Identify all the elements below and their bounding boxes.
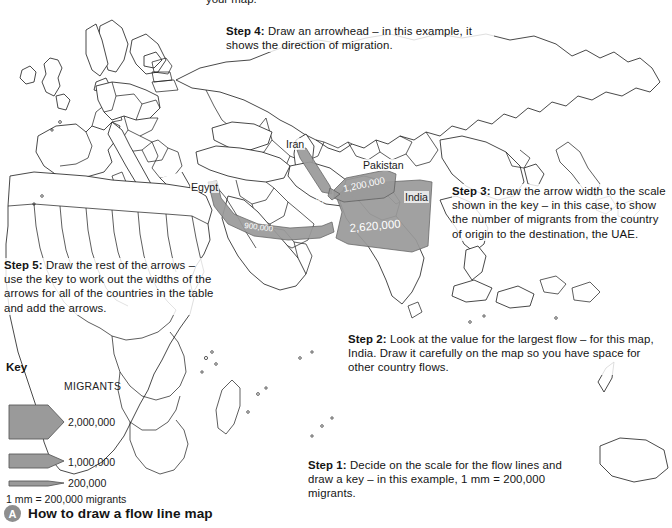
map-label-iran: Iran <box>285 138 305 150</box>
step-5-label: Step 5: <box>4 259 43 271</box>
map-label-india: India <box>404 191 429 203</box>
step-2-label: Step 2: <box>348 333 387 345</box>
figure-caption: A How to draw a flow line map <box>4 505 213 522</box>
key-column-header: MIGRANTS <box>64 381 121 392</box>
key-value-1000000: 1,000,000 <box>68 456 115 468</box>
callout-step-5: Step 5: Draw the rest of the arrows – us… <box>4 258 216 315</box>
key-swatch-200000 <box>8 477 66 489</box>
truncated-top-label: your map. <box>206 0 257 5</box>
step-2-body: Look at the value for the largest flow –… <box>348 333 654 373</box>
figure-canvas: 2,620,000 1,200,000 400,000 900,000 Egyp… <box>0 0 672 528</box>
figure-badge-a: A <box>4 505 21 522</box>
key-title: Key <box>6 360 156 373</box>
callout-step-3: Step 3: Draw the arrow width to the scal… <box>452 184 670 241</box>
callout-step-1: Step 1: Decide on the scale for the flow… <box>308 458 568 501</box>
step-1-label: Step 1: <box>308 459 347 471</box>
step-4-label: Step 4: <box>226 25 265 37</box>
callout-step-4: Step 4: Draw an arrowhead – in this exam… <box>226 24 494 52</box>
key-swatch-2000000 <box>8 401 66 443</box>
truncated-top-text: your map. <box>206 0 406 6</box>
key-value-200000: 200,000 <box>68 477 106 489</box>
key-scale-note: 1 mm = 200,000 migrants <box>6 493 126 505</box>
map-label-egypt: Egypt <box>190 181 219 193</box>
map-key: Key MIGRANTS 2,000,000 1,000,000 200,000… <box>6 360 156 373</box>
step-3-label: Step 3: <box>452 185 491 197</box>
figure-caption-text: How to draw a flow line map <box>28 506 213 521</box>
key-swatch-1000000 <box>8 451 66 471</box>
callout-step-2: Step 2: Look at the value for the larges… <box>348 332 658 375</box>
step-1-body: Decide on the scale for the flow lines a… <box>308 459 562 499</box>
map-label-pakistan: Pakistan <box>362 159 405 171</box>
key-value-2000000: 2,000,000 <box>68 416 115 428</box>
